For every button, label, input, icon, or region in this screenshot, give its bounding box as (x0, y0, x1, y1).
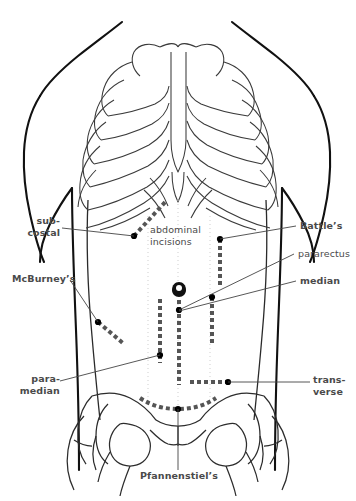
label-transverse-line1: trans- (313, 374, 346, 385)
label-median: median (300, 275, 340, 287)
label-battles-text: Battle’s (300, 220, 343, 231)
label-paramedian: para-median (8, 373, 60, 396)
label-pararectus: pararectus (298, 248, 350, 260)
label-subcostal-line1: sub- (36, 215, 60, 226)
figure-title-line1: abdominal (150, 224, 201, 235)
label-transverse: trans-verse (313, 374, 346, 397)
label-paramedian-line1: para- (31, 373, 60, 384)
label-median-text: median (300, 275, 340, 286)
label-pfannenstiels: Pfannenstiel’s (140, 470, 218, 482)
label-mcburneys-text: McBurney’s (12, 273, 75, 284)
label-subcostal-line2: costal (27, 227, 60, 238)
label-subcostal: sub-costal (8, 215, 60, 238)
label-pfannenstiels-text: Pfannenstiel’s (140, 470, 218, 481)
figure-title-line2: incisions (150, 236, 192, 247)
label-battles: Battle’s (300, 220, 343, 232)
label-pararectus-text: pararectus (298, 248, 350, 259)
label-paramedian-line2: median (20, 385, 60, 396)
umbilicus (172, 282, 186, 297)
label-transverse-line2: verse (313, 386, 343, 397)
figure-title: abdominalincisions (150, 224, 201, 247)
label-mcburneys: McBurney’s (12, 273, 75, 285)
